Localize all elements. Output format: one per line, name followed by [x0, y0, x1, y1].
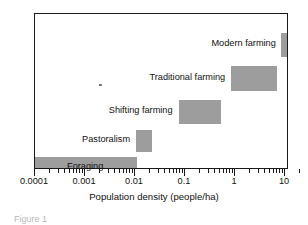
x-tick-major	[284, 169, 285, 176]
x-tick-minor	[269, 169, 270, 173]
x-tick-label-2: 0.01	[125, 177, 143, 186]
x-tick-minor	[64, 169, 65, 173]
x-tick-minor	[149, 169, 150, 173]
x-tick-minor	[169, 169, 170, 173]
bar-label-modern-farming: Modern farming	[211, 39, 275, 48]
x-tick-minor	[282, 169, 283, 173]
x-tick-minor	[232, 169, 233, 173]
x-tick-minor	[208, 169, 209, 173]
x-tick-minor	[182, 169, 183, 173]
x-tick-minor	[108, 169, 109, 173]
chart-plot-frame	[34, 13, 288, 169]
x-tick-minor	[164, 169, 165, 173]
figure-container: 0.00010.0010.010.1110 Population density…	[0, 0, 308, 225]
x-tick-minor	[49, 169, 50, 173]
x-axis-title: Population density (people/ha)	[0, 192, 308, 202]
bar-pastoralism	[136, 130, 152, 152]
x-tick-minor	[214, 169, 215, 173]
x-tick-minor	[176, 169, 177, 173]
x-tick-minor	[123, 169, 124, 173]
x-axis-tick-labels: 0.00010.0010.010.1110	[0, 177, 308, 190]
x-tick-label-5: 10	[279, 177, 289, 186]
x-tick-label-3: 0.1	[178, 177, 191, 186]
x-tick-minor	[229, 169, 230, 173]
x-tick-minor	[126, 169, 127, 173]
x-tick-minor	[299, 169, 300, 173]
x-tick-major	[34, 169, 35, 176]
x-tick-minor	[199, 169, 200, 173]
x-tick-minor	[114, 169, 115, 173]
x-tick-minor	[132, 169, 133, 173]
x-tick-minor	[219, 169, 220, 173]
x-tick-minor	[258, 169, 259, 173]
x-tick-minor	[276, 169, 277, 173]
bar-traditional-farming	[231, 66, 277, 91]
x-tick-major	[134, 169, 135, 176]
bar-label-pastoralism: Pastoralism	[82, 135, 130, 144]
x-tick-minor	[179, 169, 180, 173]
x-tick-minor	[119, 169, 120, 173]
x-tick-minor	[58, 169, 59, 173]
x-tick-minor	[264, 169, 265, 173]
x-tick-minor	[173, 169, 174, 173]
x-tick-minor	[223, 169, 224, 173]
x-tick-minor	[249, 169, 250, 173]
bar-shifting-farming	[179, 100, 221, 124]
x-tick-minor	[158, 169, 159, 173]
x-tick-minor	[279, 169, 280, 173]
x-tick-minor	[226, 169, 227, 173]
bar-label-traditional-farming: Traditional farming	[149, 73, 225, 82]
x-tick-label-1: 0.001	[73, 177, 96, 186]
bar-modern-farming	[281, 33, 287, 57]
x-tick-minor	[273, 169, 274, 173]
x-tick-major	[184, 169, 185, 176]
x-tick-major	[234, 169, 235, 176]
bar-label-shifting-farming: Shifting farming	[109, 106, 173, 115]
x-tick-label-0: 0.0001	[20, 177, 48, 186]
x-tick-minor	[129, 169, 130, 173]
figure-caption: Figure 1	[14, 215, 47, 224]
scan-artifact-speck	[99, 84, 102, 86]
x-tick-label-4: 1	[231, 177, 236, 186]
bar-label-foraging: Foraging	[67, 162, 103, 171]
